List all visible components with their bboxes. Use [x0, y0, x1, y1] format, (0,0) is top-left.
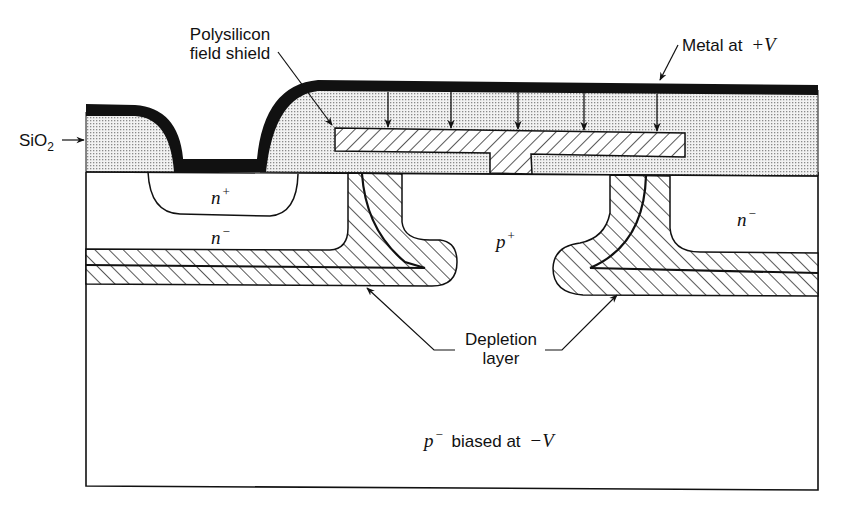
p-plus-label: p+: [496, 226, 515, 252]
depletion-layer-left: [86, 173, 457, 286]
n-minus-left-sup: −: [223, 224, 230, 239]
metal-text: Metal at: [682, 36, 742, 55]
depletion-pointer-right: [545, 295, 617, 350]
p-plus-sup: +: [508, 228, 515, 243]
n-plus-symbol: n: [211, 187, 221, 208]
p-plus-symbol: p: [496, 231, 506, 252]
n-minus-right-sup: −: [749, 206, 756, 221]
substrate-voltage: −V: [529, 430, 553, 451]
depletion-line2: layer: [455, 349, 547, 368]
depletion-layer-right: [553, 175, 818, 296]
substrate-label: p− biased at −V: [424, 425, 554, 451]
poly-shield-line1: Polysilicon: [180, 25, 280, 44]
n-plus-sup: +: [223, 184, 230, 199]
n-minus-left-symbol: n: [211, 227, 221, 248]
depletion-line1: Depletion: [455, 330, 547, 349]
substrate-symbol: p: [424, 430, 434, 451]
n-minus-right-symbol: n: [737, 209, 747, 230]
metal-voltage: +V: [751, 34, 775, 55]
n-minus-left-label: n−: [211, 222, 230, 248]
n-minus-right-label: n−: [737, 204, 756, 230]
poly-shield-line2: field shield: [180, 44, 280, 63]
metal-label: Metal at +V: [682, 35, 776, 55]
n-plus-label: n+: [211, 182, 230, 208]
cross-section-diagram: [0, 0, 842, 505]
substrate-sup: −: [436, 427, 443, 442]
sio2-label: SiO2: [19, 131, 54, 157]
sio2-sub: 2: [47, 140, 54, 154]
sio2-main: SiO: [19, 131, 47, 150]
substrate-text: biased at: [452, 432, 521, 451]
poly-shield-label: Polysilicon field shield: [180, 25, 280, 63]
metal-pointer: [660, 45, 678, 80]
depletion-pointer-left: [367, 288, 455, 350]
depletion-layer-label: Depletion layer: [455, 330, 547, 368]
